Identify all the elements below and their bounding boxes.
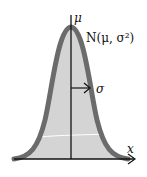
x-axis-label: x [127,142,134,156]
sigma-label: σ [96,82,105,96]
mean-label: μ [74,11,82,25]
distribution-label: N(μ, σ²) [86,31,134,45]
normal-distribution-diagram: μ N(μ, σ²) σ x [0,0,147,177]
